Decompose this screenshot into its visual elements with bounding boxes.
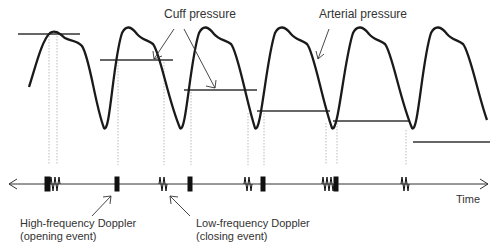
arterial-pressure-waveform (29, 27, 487, 128)
low-frequency-doppler-title: Low-frequency Doppler (196, 217, 310, 230)
doppler-burst-high-frequency (188, 177, 192, 191)
doppler-burst-mixed-1 (45, 177, 60, 191)
doppler-burst-high-frequency (261, 177, 265, 191)
cuff-pressure-arrows (153, 29, 216, 88)
time-axis-label: Time (456, 193, 480, 206)
low-frequency-doppler-label: Low-frequency Doppler (closing event) (196, 217, 310, 243)
high-frequency-doppler-title: High-frequency Doppler (20, 217, 136, 230)
doppler-label-arrows (92, 196, 190, 216)
doppler-burst-high-frequency (115, 177, 119, 191)
arterial-cuff-doppler-diagram (0, 0, 495, 252)
arterial-pressure-arrow (316, 29, 329, 59)
event-guide-lines (49, 36, 406, 165)
cuff-pressure-label: Cuff pressure (164, 8, 236, 21)
doppler-burst-mixed-2 (322, 177, 338, 191)
arterial-pressure-label: Arterial pressure (319, 8, 407, 21)
low-frequency-doppler-subtitle: (closing event) (196, 230, 310, 243)
high-frequency-doppler-subtitle: (opening event) (20, 230, 136, 243)
high-frequency-doppler-label: High-frequency Doppler (opening event) (20, 217, 136, 243)
